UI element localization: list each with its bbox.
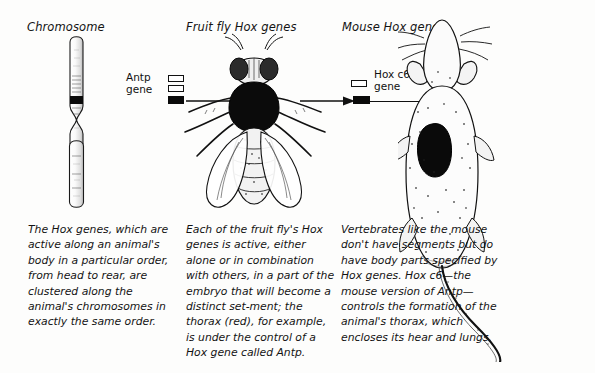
antp-gene-label: Antp gene — [126, 72, 152, 95]
fly-eye-right — [260, 58, 278, 80]
chromosome-illustration — [50, 28, 110, 218]
caption-fruit-fly: Each of the fruit fly's Hox genes is act… — [186, 222, 338, 361]
hox-c6-gene-box-2-active — [353, 96, 370, 104]
mouse-thorax-highlighted — [418, 124, 452, 177]
antp-gene-box-2 — [168, 85, 184, 92]
caption-chromosome: The Hox genes, which are active along an… — [28, 222, 176, 330]
caption-mouse: Vertebrates like the mouse don't have se… — [341, 222, 501, 345]
fly-thorax-highlighted — [229, 82, 279, 132]
chromosome-svg — [50, 28, 110, 218]
fly-eye-left — [230, 58, 248, 80]
chromosome-hox-band — [70, 96, 83, 104]
hox-c6-gene-box-1 — [351, 80, 367, 87]
antp-gene-box-3-active — [168, 96, 184, 104]
fruit-fly-illustration — [183, 28, 328, 220]
mouse-head — [424, 20, 461, 92]
antp-gene-box-1 — [168, 75, 184, 82]
arrow-to-hoxc6-gene — [300, 92, 358, 110]
fly-bristles — [225, 34, 283, 50]
chromosome-upper-arm — [70, 37, 83, 149]
fruit-fly-svg — [183, 28, 328, 220]
figure-canvas: Chromosome Fruit fly Hox genes Mouse Hox… — [0, 0, 595, 373]
